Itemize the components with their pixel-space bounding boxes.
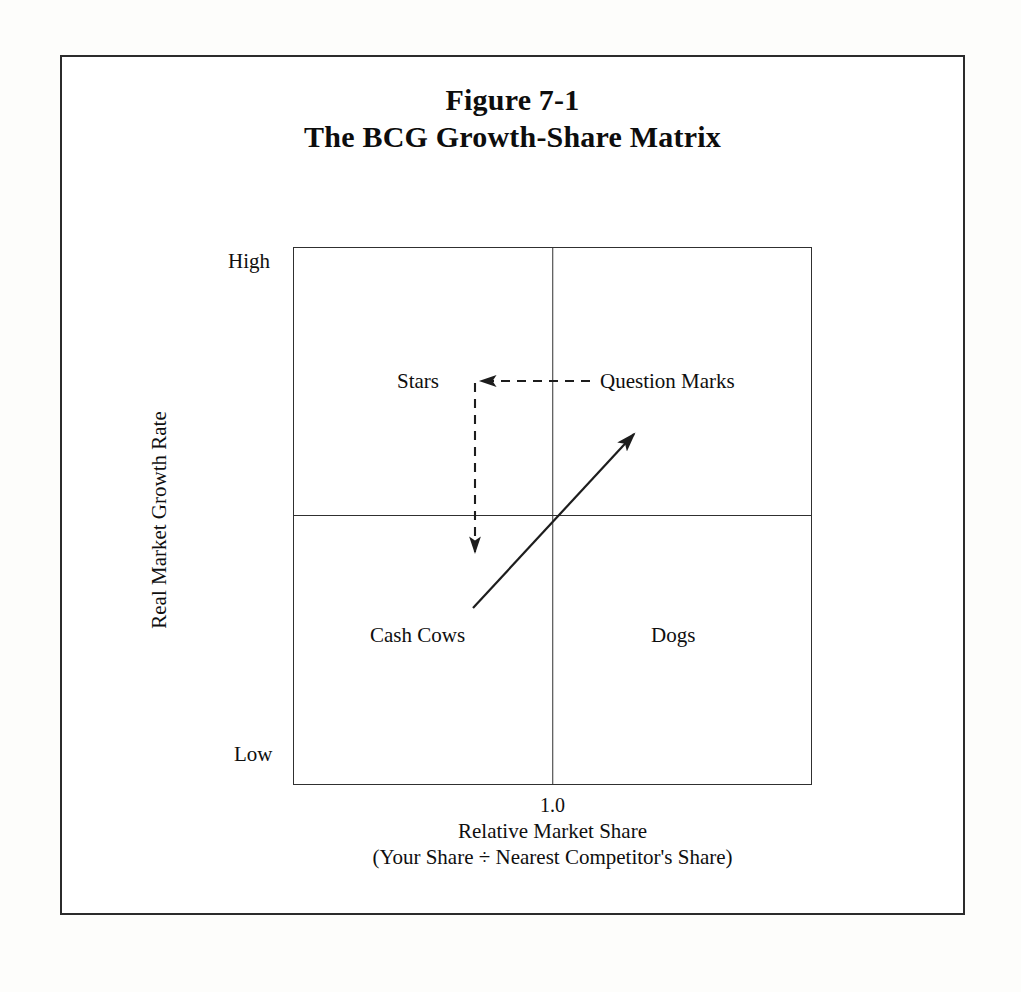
quadrant-label-question-marks: Question Marks: [600, 369, 735, 394]
matrix-horizontal-divider: [294, 515, 811, 517]
quadrant-label-dogs: Dogs: [651, 623, 695, 648]
quadrant-label-cash-cows: Cash Cows: [370, 623, 465, 648]
y-axis-title: Real Market Growth Rate: [147, 370, 172, 670]
figure-number: Figure 7-1: [62, 81, 963, 118]
scan-page: Figure 7-1 The BCG Growth-Share Matrix H…: [0, 0, 1021, 992]
y-axis-high-label: High: [228, 249, 270, 274]
figure-title: The BCG Growth-Share Matrix: [62, 118, 963, 155]
bcg-matrix-plot-area: [293, 247, 812, 785]
x-axis-center-tick-label: 1.0: [293, 793, 812, 818]
x-axis-title: Relative Market Share: [293, 818, 812, 844]
quadrant-label-stars: Stars: [397, 369, 439, 394]
x-axis-subtitle: (Your Share ÷ Nearest Competitor's Share…: [293, 844, 812, 870]
x-axis-block: 1.0 Relative Market Share (Your Share ÷ …: [293, 793, 812, 870]
figure-title-block: Figure 7-1 The BCG Growth-Share Matrix: [62, 81, 963, 155]
y-axis-low-label: Low: [234, 742, 273, 767]
